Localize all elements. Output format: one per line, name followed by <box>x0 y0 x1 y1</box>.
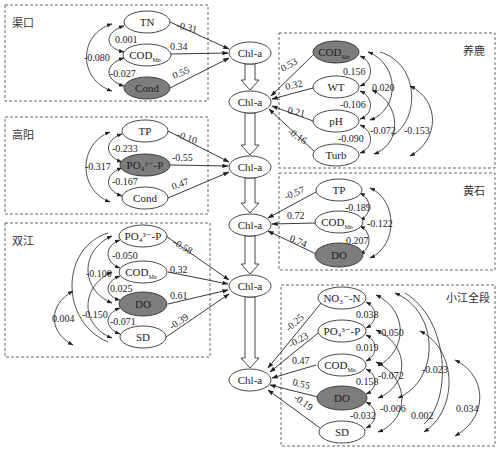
path-coef: 0.21 <box>287 104 307 119</box>
svg-text:NO₃⁻-N: NO₃⁻-N <box>323 292 360 304</box>
corr-coef: -0.032 <box>350 410 376 421</box>
corr-coef: 0.156 <box>343 66 366 77</box>
svg-text:Chl-a: Chl-a <box>238 374 263 386</box>
corr-coef: -0.167 <box>112 176 138 187</box>
corr-coef: 0.020 <box>372 82 395 93</box>
svg-text:TN: TN <box>140 16 155 28</box>
svg-text:Cond: Cond <box>133 192 157 204</box>
svg-text:PO₄³⁻-P: PO₄³⁻-P <box>324 325 361 337</box>
path-coef: -0.31 <box>176 19 199 35</box>
path-coef: 0.55 <box>171 64 191 81</box>
chl-node-5: Chl-a <box>229 275 271 297</box>
svg-text:Chl-a: Chl-a <box>238 219 263 231</box>
svg-text:DO: DO <box>334 392 350 404</box>
path-coef: 0.74 <box>288 233 308 250</box>
svg-text:Chl-a: Chl-a <box>238 47 263 59</box>
region-label-huangshi: 黄石 <box>463 184 485 198</box>
chl-node-4: Chl-a <box>229 214 271 236</box>
corr-coef: -0.050 <box>378 327 404 338</box>
corr-coef: -0.090 <box>338 133 364 144</box>
region-qukou: -0.31 0.34 0.55 0.001 -0.027 -0.080 TN C… <box>84 11 229 99</box>
path-coef: 0.61 <box>170 290 188 301</box>
corr-coef: -0.072 <box>370 125 396 136</box>
corr-coef: -0.233 <box>112 143 138 154</box>
svg-text:TP: TP <box>139 125 152 137</box>
chl-node-3: Chl-a <box>229 156 271 178</box>
svg-text:WT: WT <box>327 81 344 93</box>
corr-coef: -0.071 <box>110 316 136 327</box>
svg-text:SD: SD <box>136 331 150 343</box>
svg-text:Chl-a: Chl-a <box>238 280 263 292</box>
chl-node-1: Chl-a <box>229 42 271 64</box>
corr-coef: -0.106 <box>340 99 366 110</box>
path-coef: 0.32 <box>170 264 188 275</box>
corr-coef: -0.072 <box>378 370 404 381</box>
path-coef: -0.55 <box>172 152 193 163</box>
corr-coef: -0.122 <box>367 218 393 229</box>
corr-coef: -0.006 <box>380 403 406 414</box>
svg-text:DO: DO <box>135 298 151 310</box>
region-gaoyang: -0.10 -0.55 0.47 -0.233 -0.167 -0.317 TP… <box>85 120 229 209</box>
region-huangshi: -0.57 0.72 0.74 -0.189 0.207 -0.122 TP C… <box>268 179 393 267</box>
path-coef: 0.72 <box>287 210 305 221</box>
corr-coef: -0.080 <box>84 52 110 63</box>
corr-coef: -0.317 <box>85 161 111 172</box>
region-xiaojiang: -0.25 -0.23 0.47 0.55 -0.19 0.038 0.019 … <box>268 287 480 443</box>
svg-text:SD: SD <box>335 426 349 438</box>
region-label-qukou: 渠口 <box>12 17 34 30</box>
path-coef: -0.10 <box>175 129 198 146</box>
svg-text:DO: DO <box>331 249 347 261</box>
svg-text:pH: pH <box>329 115 343 127</box>
svg-text:PO₄³⁻-P: PO₄³⁻-P <box>125 230 162 242</box>
chl-node-2: Chl-a <box>229 91 271 113</box>
chl-node-6: Chl-a <box>229 369 271 391</box>
region-label-yanglu: 养鹿 <box>463 44 485 58</box>
svg-text:PO₄³⁻-P: PO₄³⁻-P <box>127 159 164 171</box>
svg-text:TP: TP <box>333 184 346 196</box>
path-coef: 0.32 <box>284 78 303 92</box>
corr-coef: 0.019 <box>356 342 379 353</box>
corr-coef: -0.027 <box>110 68 136 79</box>
region-label-xiaojiang: 小江全段 <box>446 291 490 305</box>
corr-coef: 0.158 <box>356 376 379 387</box>
corr-coef: 0.002 <box>411 410 434 421</box>
region-yanglu: 0.53 0.32 0.21 -0.16 0.156 -0.106 -0.090… <box>269 41 433 166</box>
corr-coef: -0.150 <box>82 309 108 320</box>
corr-coef: 0.001 <box>115 34 138 45</box>
corr-coef: 0.038 <box>356 309 379 320</box>
corr-coef: -0.100 <box>86 268 112 279</box>
corr-coef: 0.025 <box>110 283 133 294</box>
path-coef: 0.55 <box>292 376 312 391</box>
corr-coef: -0.050 <box>112 250 138 261</box>
svg-text:Chl-a: Chl-a <box>238 96 263 108</box>
region-shuangjiang: -0.58 0.32 0.61 -0.39 -0.050 0.025 -0.07… <box>52 225 229 348</box>
corr-coef: 0.034 <box>456 403 479 414</box>
svg-text:Turb: Turb <box>326 149 347 161</box>
path-coef: 0.47 <box>292 355 310 366</box>
corr-coef: -0.023 <box>422 364 448 375</box>
corr-coef: -0.153 <box>404 125 430 136</box>
region-label-gaoyang: 高阳 <box>12 128 34 142</box>
region-label-shuangjiang: 双江 <box>12 235 34 248</box>
svg-text:Chl-a: Chl-a <box>238 161 263 173</box>
svg-text:Cond: Cond <box>135 82 159 94</box>
path-analysis-diagram: 渠口 高阳 双江 养鹿 黄石 小江全段 Chl-a Chl-a Chl-a Ch… <box>0 0 498 453</box>
corr-coef: 0.004 <box>52 313 75 324</box>
corr-coef: -0.189 <box>345 202 371 213</box>
path-coef: 0.34 <box>170 41 188 52</box>
